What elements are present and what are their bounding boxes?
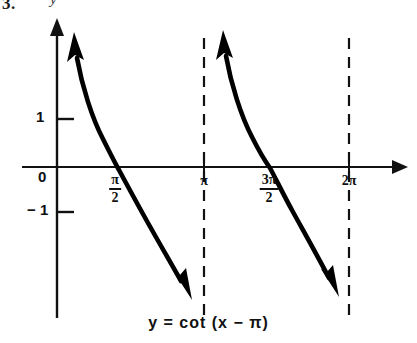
x-tick-label-pi-over-2: π 2 xyxy=(109,173,121,205)
x-tick-pi-over-2-denominator: 2 xyxy=(109,190,121,205)
figure-caption: y = cot (x − π) xyxy=(0,314,417,332)
x-tick-3pi-over-2-numerator: 3π xyxy=(260,173,279,190)
curve-branch-2 xyxy=(216,30,339,297)
x-tick-3pi-over-2-denominator: 2 xyxy=(260,190,279,205)
cotangent-graph-figure: 3. y xyxy=(0,0,417,343)
y-tick-label-0: 0 xyxy=(38,168,46,185)
y-tick-marks xyxy=(57,119,74,212)
x-tick-label-3pi-over-2: 3π 2 xyxy=(260,173,279,205)
x-tick-pi-over-2-numerator: π xyxy=(109,173,121,190)
x-tick-label-2pi: 2π xyxy=(342,173,357,189)
y-tick-label-1: 1 xyxy=(36,108,44,125)
x-tick-label-pi: π xyxy=(200,173,208,189)
y-tick-label-minus-1: − 1 xyxy=(27,201,48,218)
graph-canvas xyxy=(0,0,417,343)
